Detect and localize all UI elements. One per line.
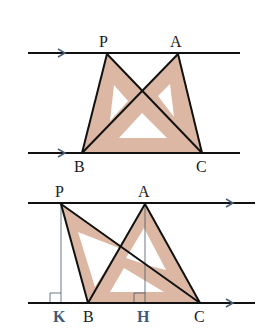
figure-1: P A B C [28,33,240,175]
diagram-canvas: P A B C P A K B H C [0,0,271,335]
label-b-1: B [74,158,85,175]
label-a-1: A [170,33,182,50]
label-b-2: B [83,308,94,325]
label-p-1: P [99,33,108,50]
label-a-2: A [138,183,150,200]
parallel-lines-triangles-diagram: P A B C P A K B H C [0,0,271,335]
label-c-1: C [196,158,207,175]
label-k: K [53,308,66,325]
right-angle-k [50,293,61,303]
label-p-2: P [55,183,64,200]
label-c-2: C [194,308,205,325]
figure-2: P A K B H C [28,183,255,325]
label-h: H [137,308,150,325]
